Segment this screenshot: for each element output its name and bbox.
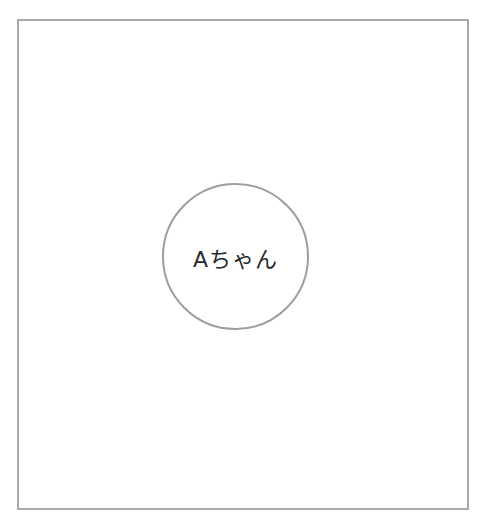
cropped-caption-strip xyxy=(40,0,430,2)
person-node-a-chan: Aちゃん xyxy=(162,183,309,330)
node-label: Aちゃん xyxy=(193,241,278,273)
